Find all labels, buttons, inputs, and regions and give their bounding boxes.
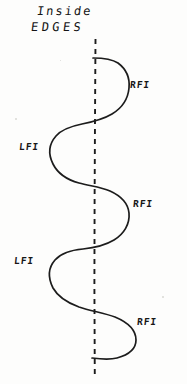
edges-diagram-svg bbox=[0, 0, 187, 384]
dashed-centerline bbox=[94, 39, 95, 379]
serpentine-curve-group bbox=[49, 58, 136, 359]
centerline-group bbox=[94, 39, 95, 379]
label-lfi-1: LFI bbox=[19, 142, 40, 152]
page-title-line-1: Inside bbox=[36, 5, 93, 17]
serpentine-wave-curve bbox=[49, 58, 136, 359]
label-rfi-2: RFI bbox=[133, 199, 154, 209]
label-lfi-2: LFI bbox=[14, 256, 35, 266]
sketch-canvas: Inside EDGES RFI LFI RFI LFI RFI bbox=[0, 0, 187, 384]
label-rfi-3: RFI bbox=[137, 317, 158, 327]
label-rfi-1: RFI bbox=[130, 80, 151, 90]
scan-speck bbox=[60, 60, 61, 61]
scan-speck bbox=[15, 118, 17, 120]
page-title-line-2: EDGES bbox=[30, 21, 85, 33]
scan-speck bbox=[162, 296, 164, 298]
